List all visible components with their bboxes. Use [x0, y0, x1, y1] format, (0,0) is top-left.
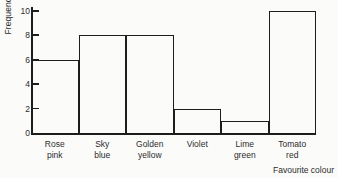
y-axis-tick-label: 2	[25, 104, 30, 114]
plot-area: 0246810 Rose pinkSky blueGolden yellowVi…	[31, 11, 316, 135]
y-axis-tick-mark	[33, 34, 39, 36]
x-axis-tick-label: Rose pink	[31, 139, 79, 161]
x-axis-tick-label: Violet	[174, 139, 222, 150]
y-axis-tick: 10	[9, 6, 39, 16]
bar	[79, 35, 127, 135]
bar-chart: Frequency 0246810 Rose pinkSky blueGolde…	[0, 0, 338, 178]
x-axis-tick-label: Lime green	[221, 139, 269, 161]
x-axis-title: Favourite colour	[273, 165, 334, 175]
y-axis-tick: 8	[9, 30, 39, 40]
y-axis-tick-label: 0	[25, 128, 30, 138]
y-axis-tick-label: 10	[21, 6, 30, 16]
bar	[269, 11, 317, 135]
bar	[126, 35, 174, 135]
y-axis-tick-label: 4	[25, 79, 30, 89]
y-axis-tick-label: 8	[25, 30, 30, 40]
x-axis-tick-label: Golden yellow	[126, 139, 174, 161]
bar	[31, 60, 79, 135]
x-axis-tick-label: Sky blue	[79, 139, 127, 161]
y-axis-tick-label: 6	[25, 55, 30, 65]
bar	[174, 109, 222, 135]
bar	[221, 121, 269, 135]
x-axis-tick-label: Tomato red	[269, 139, 317, 161]
y-axis-tick-mark	[33, 10, 39, 12]
